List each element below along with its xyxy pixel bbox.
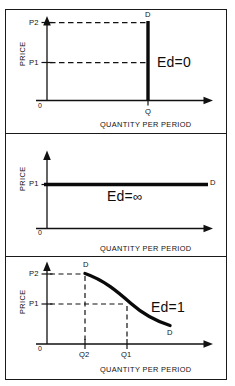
panel1-origin-label: 0 <box>38 102 42 109</box>
panel3-origin-label: 0 <box>38 345 42 352</box>
panel1-tick-q: Q <box>145 108 151 116</box>
panel3-tick-p2: P2 <box>29 270 39 278</box>
panel2-quantity-axis-label: QUANTITY PER PERIOD <box>100 245 192 252</box>
panel3-price-axis-label: PRICE <box>19 289 26 314</box>
panel3-demand-label-top: D <box>83 261 88 269</box>
panel2-origin-label: 0 <box>38 229 42 236</box>
panel2-demand-label: D <box>210 179 215 187</box>
panel3-quantity-axis-label: QUANTITY PER PERIOD <box>100 366 192 373</box>
panel1-tick-p2: P2 <box>29 19 39 27</box>
panel-perfectly-elastic: PRICE P1 0 D Ed=∞ QUANTITY PER PERIOD <box>0 133 235 256</box>
panel3-x-axis-arrow <box>204 340 214 348</box>
panel-unit-elastic: PRICE P2 P1 0 Q2 Q1 D D Ed=1 QUANTITY PE… <box>0 256 235 380</box>
panel2-tick-p1: P1 <box>29 180 39 188</box>
panel2-elasticity-label: Ed=∞ <box>107 189 142 203</box>
panel1-y-axis-arrow <box>43 16 51 26</box>
panel1-tick-p1: P1 <box>29 59 39 67</box>
panel1-elasticity-label: Ed=0 <box>157 55 191 69</box>
panel3-elasticity-label: Ed=1 <box>151 300 185 314</box>
panel1-graphic <box>0 9 235 133</box>
panel2-price-axis-label: PRICE <box>19 166 26 191</box>
panel3-y-axis-arrow <box>43 262 51 272</box>
infinity-icon: ∞ <box>133 189 142 204</box>
panel2-x-axis-arrow <box>204 225 214 233</box>
panel2-y-axis-arrow <box>43 151 51 161</box>
panel2-elasticity-prefix: Ed= <box>107 188 133 204</box>
panel1-demand-label: D <box>145 11 150 19</box>
panel1-quantity-axis-label: QUANTITY PER PERIOD <box>100 121 192 128</box>
panel3-tick-q1: Q1 <box>121 351 131 359</box>
elasticity-figure: PRICE P2 P1 0 Q D Ed=0 QUANTITY PER PERI… <box>0 0 235 386</box>
panel3-tick-q2: Q2 <box>79 351 89 359</box>
panel3-demand-label-bottom: D <box>167 329 172 337</box>
panel1-price-axis-label: PRICE <box>19 41 26 66</box>
panel-perfectly-inelastic: PRICE P2 P1 0 Q D Ed=0 QUANTITY PER PERI… <box>0 9 235 133</box>
panel1-x-axis-arrow <box>204 97 214 105</box>
panel3-tick-p1: P1 <box>29 300 39 308</box>
